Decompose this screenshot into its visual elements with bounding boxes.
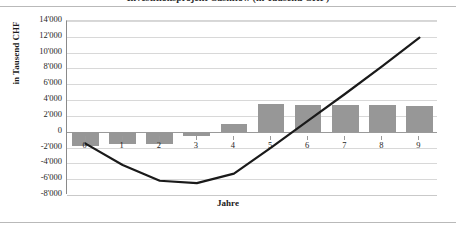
y-tick-label: 6'000 bbox=[0, 78, 62, 87]
top-divider-rule bbox=[0, 6, 456, 7]
chart-title: Investitionsprojekt Cashflow (in Tausend… bbox=[0, 0, 456, 5]
x-tick-text: 0 bbox=[82, 140, 86, 150]
y-tick-label: -2'000 bbox=[0, 142, 62, 151]
y-tick-label: 8'000 bbox=[0, 62, 62, 71]
x-tick-mark bbox=[122, 136, 123, 140]
x-tick-label-8: 8 bbox=[371, 140, 391, 150]
x-tick-mark bbox=[196, 136, 197, 140]
bottom-divider-rule bbox=[0, 222, 456, 223]
y-tick-label: -4'000 bbox=[0, 157, 62, 166]
y-tick-label: 0 bbox=[0, 126, 62, 135]
gridline bbox=[67, 195, 437, 196]
y-tick-label: 10'000 bbox=[0, 47, 62, 56]
y-tick-label: -8'000 bbox=[0, 189, 62, 198]
x-axis-title: Jahre bbox=[0, 198, 456, 208]
x-tick-text: 5 bbox=[268, 140, 272, 150]
cumulative-cashflow-line bbox=[86, 38, 420, 184]
x-tick-mark bbox=[85, 136, 86, 140]
x-tick-mark bbox=[381, 136, 382, 140]
x-tick-mark bbox=[159, 136, 160, 140]
x-tick-mark bbox=[344, 136, 345, 140]
x-tick-mark bbox=[307, 136, 308, 140]
chart-figure: Investitionsprojekt Cashflow (in Tausend… bbox=[0, 0, 456, 242]
y-tick-label: 4'000 bbox=[0, 94, 62, 103]
series-layer bbox=[67, 21, 438, 195]
x-tick-mark bbox=[418, 136, 419, 140]
x-tick-text: 6 bbox=[305, 140, 309, 150]
x-tick-label-0: 0 bbox=[75, 140, 95, 150]
x-tick-label-3: 3 bbox=[186, 140, 206, 150]
x-axis-ticks: 0123456789 bbox=[66, 140, 437, 154]
x-tick-label-7: 7 bbox=[334, 140, 354, 150]
plot-area bbox=[66, 20, 437, 194]
x-tick-text: 8 bbox=[379, 140, 383, 150]
x-tick-text: 7 bbox=[342, 140, 346, 150]
y-tick-label: -6'000 bbox=[0, 173, 62, 182]
x-tick-text: 9 bbox=[416, 140, 420, 150]
x-tick-label-2: 2 bbox=[149, 140, 169, 150]
x-tick-mark bbox=[270, 136, 271, 140]
x-tick-label-5: 5 bbox=[260, 140, 280, 150]
x-tick-label-1: 1 bbox=[112, 140, 132, 150]
x-tick-text: 2 bbox=[157, 140, 161, 150]
y-tick-label: 14'000 bbox=[0, 15, 62, 24]
x-tick-label-6: 6 bbox=[297, 140, 317, 150]
x-tick-label-9: 9 bbox=[408, 140, 428, 150]
y-tick-label: 2'000 bbox=[0, 110, 62, 119]
y-tick-label: 12'000 bbox=[0, 31, 62, 40]
x-tick-text: 1 bbox=[120, 140, 124, 150]
x-tick-label-4: 4 bbox=[223, 140, 243, 150]
x-tick-text: 4 bbox=[231, 140, 235, 150]
x-tick-mark bbox=[233, 136, 234, 140]
x-tick-text: 3 bbox=[194, 140, 198, 150]
